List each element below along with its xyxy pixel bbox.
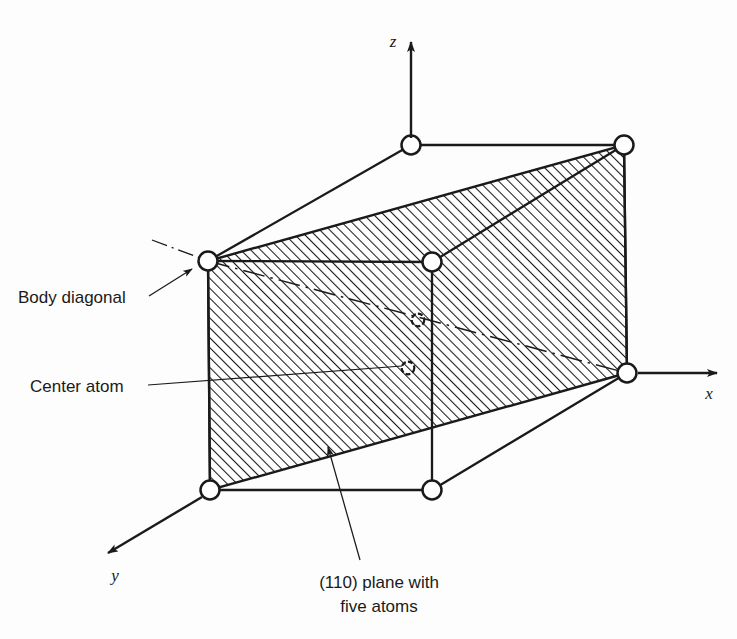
bcc-unit-cell-diagram: z x y Body diagonal Center atom (110) pl… [0,0,737,639]
atom-corner-bottom-front-right [423,481,442,500]
caption-line-1: (110) plane with [319,573,439,592]
axis-x-label: x [704,384,713,403]
atom-corner-bottom-back-right [618,364,637,383]
atom-corner-top-front-left [199,252,218,271]
axis-z-label: z [389,32,397,51]
atom-corner-bottom-front-left [201,481,220,500]
atom-corner-top-back-left [402,136,421,155]
label-body-diagonal: Body diagonal [18,288,126,307]
caption-line-2: five atoms [340,597,417,616]
axis-y-label: y [109,566,119,585]
label-center-atom: Center atom [30,377,124,396]
figure-root: z x y Body diagonal Center atom (110) pl… [0,0,737,639]
atom-corner-top-front-right [423,253,442,272]
edge-top-front [208,261,432,262]
atom-corner-top-back-right [615,136,634,155]
